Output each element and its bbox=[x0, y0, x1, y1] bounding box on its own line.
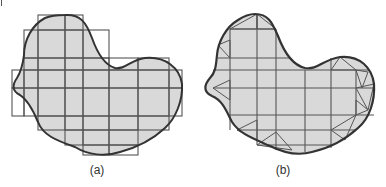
panel-b-adapted-mesh bbox=[205, 14, 374, 154]
panel-a-label: (a) bbox=[77, 163, 117, 177]
corner-artifact bbox=[1, 0, 2, 6]
mesh-figure bbox=[0, 0, 386, 187]
region-b-shape bbox=[205, 14, 374, 154]
panel-b-label: (b) bbox=[263, 163, 303, 177]
panel-a-grid-overlay bbox=[12, 15, 182, 155]
